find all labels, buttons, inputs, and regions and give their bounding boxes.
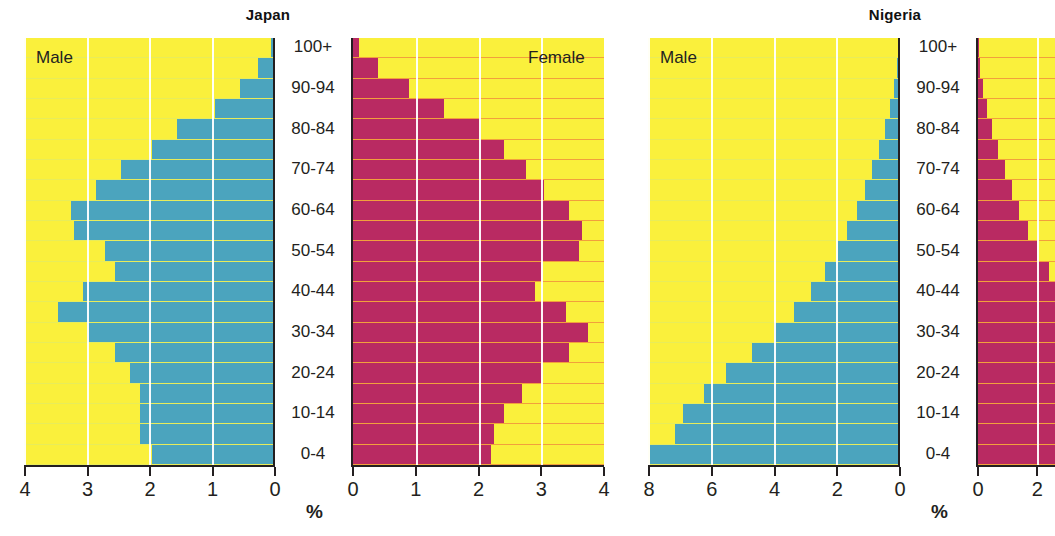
female-bar (978, 241, 1037, 260)
axis-tick (648, 467, 650, 476)
age-group-label: 40-44 (275, 281, 351, 301)
axis-tick-label: 0 (333, 478, 373, 501)
female-bar (978, 201, 1019, 220)
male-bar (115, 262, 274, 281)
gridline (87, 38, 89, 465)
axis-tick (24, 467, 26, 476)
age-group-label: 50-54 (900, 241, 976, 261)
axis-tick (212, 467, 214, 476)
bar-row (978, 79, 1055, 99)
age-group-label: 0-4 (275, 444, 351, 464)
female-bar (353, 262, 541, 281)
male-bar (87, 323, 275, 342)
japan-male-label: Male (36, 48, 73, 68)
female-bar (353, 282, 535, 301)
bar-row (978, 140, 1055, 160)
gridline (774, 38, 776, 465)
gridline (416, 38, 418, 465)
axis-tick-label: 0 (880, 478, 920, 501)
bar-row (978, 241, 1055, 261)
bar-row (978, 221, 1055, 241)
gridline (541, 38, 543, 465)
nigeria-female-axis-line (976, 465, 1055, 467)
female-bar (353, 99, 444, 118)
male-bar (865, 180, 900, 199)
male-bar (879, 140, 899, 159)
female-bar (978, 160, 1005, 179)
female-bar (978, 180, 1012, 199)
bar-row (978, 282, 1055, 302)
male-bar (115, 343, 274, 362)
age-group-label: 60-64 (275, 200, 351, 220)
gridline (711, 38, 713, 465)
axis-tick (603, 467, 605, 476)
female-bar (978, 384, 1055, 403)
female-bar (353, 58, 378, 77)
bar-row (978, 363, 1055, 383)
axis-tick-label: 3 (521, 478, 561, 501)
male-bar (74, 221, 274, 240)
female-bar (978, 424, 1055, 443)
japan-female-axis-spine (351, 38, 353, 466)
bar-row (978, 119, 1055, 139)
axis-tick (977, 467, 979, 476)
female-bar (353, 79, 409, 98)
japan-caption (30, 526, 530, 536)
male-bar (215, 99, 274, 118)
bar-row (978, 424, 1055, 444)
female-bar (353, 384, 522, 403)
axis-tick-label: 2 (130, 478, 170, 501)
female-bar (978, 445, 1055, 464)
male-bar (811, 282, 899, 301)
female-bar (353, 201, 569, 220)
bar-row (978, 160, 1055, 180)
axis-tick (836, 467, 838, 476)
axis-tick-label: 3 (68, 478, 108, 501)
axis-tick-label: 0 (958, 478, 998, 501)
age-group-label: 80-84 (900, 119, 976, 139)
gridline (212, 38, 214, 465)
male-bar (675, 424, 899, 443)
female-bar (353, 160, 526, 179)
male-bar (177, 119, 274, 138)
age-group-label: 70-74 (275, 159, 351, 179)
nigeria-male-label: Male (660, 48, 697, 68)
bar-row (978, 201, 1055, 221)
male-bar (794, 302, 899, 321)
age-group-label: 20-24 (900, 363, 976, 383)
female-bar (353, 140, 504, 159)
male-bar (885, 119, 899, 138)
male-bar (121, 160, 274, 179)
axis-tick-label: 0 (255, 478, 295, 501)
axis-tick (711, 467, 713, 476)
axis-tick-label: 8 (629, 478, 669, 501)
female-bar (978, 38, 979, 57)
gridline (648, 38, 650, 465)
age-group-label: 50-54 (275, 241, 351, 261)
male-bar (704, 384, 899, 403)
female-bar (978, 221, 1028, 240)
axis-tick-label: 2 (817, 478, 857, 501)
nigeria-title: Nigeria (820, 6, 970, 23)
male-bar (140, 424, 274, 443)
female-bar (978, 282, 1055, 301)
male-bar (140, 384, 274, 403)
male-bar (726, 363, 899, 382)
age-group-label: 30-34 (900, 322, 976, 342)
male-bar (683, 404, 899, 423)
female-bar (978, 302, 1055, 321)
female-bar (353, 221, 582, 240)
japan-male-plot (24, 38, 274, 465)
bar-row (978, 384, 1055, 404)
male-bar (130, 363, 274, 382)
female-bar (353, 424, 494, 443)
axis-tick (1036, 467, 1038, 476)
age-group-label: 30-34 (275, 322, 351, 342)
axis-tick (478, 467, 480, 476)
axis-tick (899, 467, 901, 476)
female-bar (353, 180, 544, 199)
age-group-label: 90-94 (900, 78, 976, 98)
bar-row (978, 262, 1055, 282)
female-bar (978, 99, 987, 118)
female-bar (353, 241, 579, 260)
